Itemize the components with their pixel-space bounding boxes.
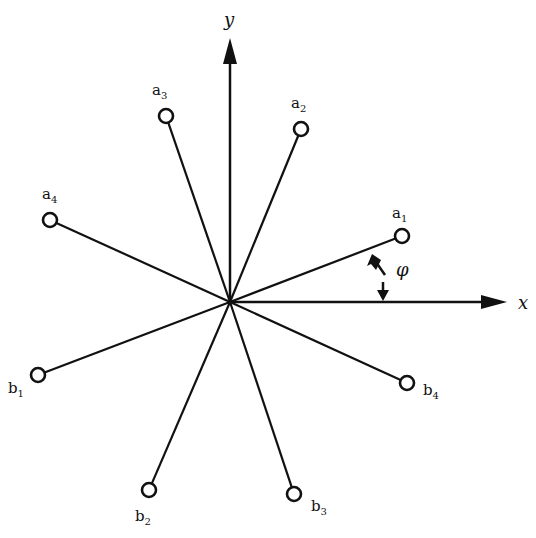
x-axis-arrowhead-icon bbox=[481, 295, 507, 309]
node-label-a2: a2 bbox=[291, 94, 306, 114]
spoke-a4 bbox=[56, 223, 230, 302]
spoke-b1 bbox=[45, 302, 230, 373]
node-a4-icon bbox=[43, 213, 57, 227]
node-a3-icon bbox=[159, 109, 173, 123]
y-axis-arrowhead-icon bbox=[223, 38, 237, 64]
spoke-a3 bbox=[168, 123, 230, 302]
spoke-b4 bbox=[230, 302, 401, 380]
angle-phi-marker: φ bbox=[367, 254, 409, 301]
y-axis-label: y bbox=[223, 9, 235, 30]
node-label-a3: a3 bbox=[152, 81, 167, 101]
x-axis: x bbox=[230, 292, 528, 313]
node-label-b2: b2 bbox=[135, 507, 151, 527]
node-b2-icon bbox=[142, 483, 156, 497]
spoke-b2 bbox=[152, 302, 230, 484]
angle-label: φ bbox=[396, 259, 409, 280]
node-label-b4: b4 bbox=[423, 381, 439, 401]
spokes bbox=[45, 123, 401, 488]
spoke-a1 bbox=[230, 239, 395, 302]
spoke-a2 bbox=[230, 135, 298, 302]
node-label-a4: a4 bbox=[42, 185, 57, 205]
antenna-diagram: y x a1a2a3a4b1b2b3b4 φ bbox=[0, 0, 536, 538]
phi-arrow-lower-icon bbox=[377, 290, 389, 301]
node-label-b1: b1 bbox=[8, 379, 24, 399]
y-axis: y bbox=[223, 9, 237, 302]
node-a2-icon bbox=[294, 122, 308, 136]
node-b1-icon bbox=[31, 368, 45, 382]
node-b3-icon bbox=[287, 487, 301, 501]
x-axis-label: x bbox=[518, 292, 528, 313]
node-a1-icon bbox=[395, 229, 409, 243]
spoke-b3 bbox=[230, 302, 292, 487]
node-label-a1: a1 bbox=[392, 204, 407, 224]
node-label-b3: b3 bbox=[311, 497, 327, 517]
node-b4-icon bbox=[400, 376, 414, 390]
